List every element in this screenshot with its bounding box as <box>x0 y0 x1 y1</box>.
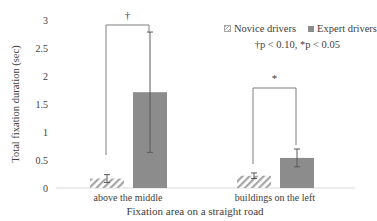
significance-note: †p < 0.10, *p < 0.05 <box>255 39 340 50</box>
significance-marker: † <box>125 9 131 21</box>
y-tick-label: 1 <box>43 127 48 138</box>
legend-item-novice: Novice drivers <box>224 23 296 34</box>
legend-label-expert: Expert drivers <box>317 23 377 34</box>
y-tick-label: 2.5 <box>36 43 49 54</box>
y-tick-label: 2 <box>43 71 48 82</box>
bars-group <box>90 32 314 188</box>
y-axis-label: Total fixation duration (sec) <box>10 45 21 162</box>
x-axis-label: Fixation area on a straight road <box>126 205 263 217</box>
y-tick-label: 3 <box>43 15 48 26</box>
legend-label-novice: Novice drivers <box>234 23 296 34</box>
y-tick-label: 0.5 <box>36 155 49 166</box>
legend-item-expert: Expert drivers <box>308 23 377 34</box>
legend: Novice drivers Expert drivers <box>224 23 377 34</box>
y-tick-label: 0 <box>43 183 48 194</box>
y-axis-ticks: 00.511.522.53 <box>36 15 49 193</box>
y-tick-label: 1.5 <box>36 99 49 110</box>
category-label-above-middle: above the middle <box>94 192 163 203</box>
significance-marker: * <box>272 72 278 84</box>
hatched-swatch-icon <box>224 25 231 32</box>
category-label-buildings-left: buildings on the left <box>235 192 315 203</box>
significance-bracket <box>253 88 296 164</box>
solid-swatch-icon <box>308 26 314 32</box>
